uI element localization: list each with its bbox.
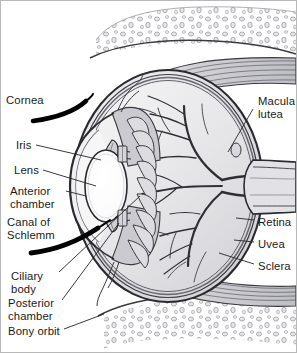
label-canal-of-schlemm: Canal ofSchlemm [7, 216, 55, 241]
label-line: Macula [258, 95, 295, 108]
label-line: chamber [8, 310, 54, 323]
label-retina: Retina [258, 216, 291, 229]
label-line: Bony orbit [8, 325, 60, 338]
label-cornea: Cornea [6, 94, 44, 107]
label-line: chamber [10, 198, 55, 211]
label-line: Uvea [258, 238, 285, 251]
label-line: Sclera [258, 260, 291, 273]
label-line: body [11, 283, 43, 296]
label-posterior-chamber: Posteriorchamber [8, 297, 54, 322]
label-line: Posterior [8, 297, 54, 310]
orbital-fat-superior [90, 7, 296, 58]
label-line: Anterior [10, 185, 55, 198]
label-line: Iris [16, 139, 31, 152]
label-line: Schlemm [7, 229, 55, 242]
label-line: Retina [258, 216, 291, 229]
label-macula-lutea: Maculalutea [258, 95, 295, 120]
eye-anatomy-figure: CorneaIrisLensAnteriorchamberCanal ofSch… [0, 0, 297, 353]
label-anterior-chamber: Anteriorchamber [10, 185, 55, 210]
label-lens: Lens [14, 164, 39, 177]
label-bony-orbit: Bony orbit [8, 325, 60, 338]
label-uvea: Uvea [258, 238, 285, 251]
label-line: Lens [14, 164, 39, 177]
label-line: lutea [258, 108, 295, 121]
label-ciliary-body: Ciliarybody [11, 270, 43, 295]
label-sclera: Sclera [258, 260, 291, 273]
label-iris: Iris [16, 139, 31, 152]
label-line: Cornea [6, 94, 44, 107]
label-line: Canal of [7, 216, 55, 229]
label-line: Ciliary [11, 270, 43, 283]
